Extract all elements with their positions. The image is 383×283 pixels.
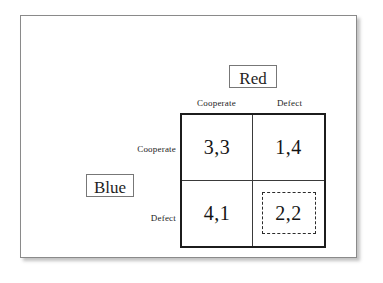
matrix-cell-defect-defect: 2,2: [253, 181, 324, 247]
row-player-name: Blue: [87, 179, 133, 196]
figure-frame: Red Blue Cooperate Defect Cooperate Defe…: [20, 15, 357, 258]
row-header-cooperate: Cooperate: [106, 144, 176, 154]
column-player-label-box: Red: [229, 65, 277, 88]
payoff-value: 2,2: [275, 203, 302, 223]
matrix-cell-defect-cooperate: 4,1: [182, 181, 253, 247]
matrix-cell-cooperate-defect: 1,4: [253, 115, 324, 181]
row-player-label-box: Blue: [86, 174, 134, 197]
column-header-cooperate: Cooperate: [180, 98, 253, 108]
payoff-value: 1,4: [275, 137, 302, 157]
diagram-page: Red Blue Cooperate Defect Cooperate Defe…: [0, 0, 383, 283]
payoff-matrix: 3,3 1,4 4,1 2,2: [180, 113, 326, 248]
payoff-value: 4,1: [204, 203, 231, 223]
payoff-value: 3,3: [204, 137, 231, 157]
matrix-cell-cooperate-cooperate: 3,3: [182, 115, 253, 181]
column-player-name: Red: [230, 70, 276, 87]
column-header-defect: Defect: [253, 98, 326, 108]
row-header-defect: Defect: [106, 213, 176, 223]
